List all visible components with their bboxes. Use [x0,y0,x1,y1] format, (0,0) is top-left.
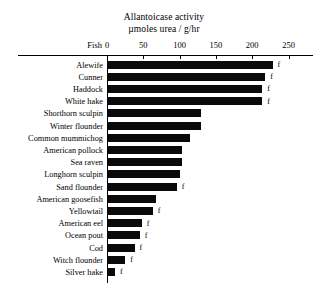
bar-row: Witch flounderf [0,256,328,268]
x-axis-line [18,55,313,56]
bar-row: American pollock [0,146,328,158]
bar-row: Common mummichog [0,134,328,146]
x-tick-label-100: 100 [173,40,186,50]
category-label: Winter flounder [50,122,103,131]
bar-row: Winter flounder [0,122,328,134]
bar [107,256,125,264]
footnote-marker: f [140,244,143,252]
bar [107,231,140,239]
x-tick-label-200: 200 [246,40,259,50]
bar [107,85,262,93]
chart-title: Allantoicase activity [0,11,328,23]
bar [107,134,190,142]
footnote-marker: f [267,98,270,106]
bar [107,170,180,178]
bar [107,183,177,191]
bar [107,195,156,203]
bar [107,73,265,81]
plot-area: AlewifefCunnerfHaddockfWhite hakefShorth… [0,59,328,284]
footnote-marker: f [182,183,185,191]
category-label: Sand flounder [56,183,103,192]
category-axis-label: Fish [60,40,102,50]
allantoicase-activity-bar-chart: Allantoicase activity µmoles urea / g/hr… [0,0,328,288]
category-label: Witch flounder [53,256,103,265]
bar [107,158,182,166]
bar-row: White hakef [0,97,328,109]
category-label: Cod [89,244,103,253]
category-label: Haddock [73,85,103,94]
x-tick-label-150: 150 [210,40,223,50]
category-label: Alewife [76,61,103,70]
chart-title-block: Allantoicase activity µmoles urea / g/hr [0,11,328,35]
bar-row: American eelf [0,219,328,231]
bar [107,268,115,276]
category-label: Silver hake [65,268,103,277]
bar [107,109,201,117]
bar-row: Sea raven [0,158,328,170]
category-label: American eel [59,219,103,228]
chart-subtitle-units: µmoles urea / g/hr [0,23,328,35]
bar-row: Longhorn sculpin [0,170,328,182]
bar-row: Alewifef [0,61,328,73]
bar-row: Shorthorn sculpin [0,109,328,121]
category-label: White hake [65,97,103,106]
category-label: Common mummichog [28,134,103,143]
bar-row: Codf [0,244,328,256]
bar [107,207,153,215]
bar-row: Sand flounderf [0,183,328,195]
footnote-marker: f [145,232,148,240]
bar [107,122,201,130]
footnote-marker: f [267,85,270,93]
category-label: Longhorn sculpin [44,170,103,179]
bar [107,146,182,154]
category-label: American goosefish [36,195,103,204]
x-axis: Fish 050100150200250 [0,40,328,60]
bar [107,61,273,69]
footnote-marker: f [120,268,123,276]
bar [107,219,142,227]
x-tick-label-0: 0 [105,40,109,50]
footnote-marker: f [278,61,281,69]
category-label: Cunner [79,73,103,82]
footnote-marker: f [158,207,161,215]
bar [107,244,135,252]
footnote-marker: f [147,220,150,228]
x-tick-label-250: 250 [282,40,295,50]
footnote-marker: f [130,256,133,264]
bar-row: Ocean poutf [0,231,328,243]
category-label: American pollock [43,146,103,155]
category-label: Yellowtail [69,207,103,216]
bar [107,97,262,105]
bar-row: Haddockf [0,85,328,97]
category-label: Sea raven [71,158,103,167]
bar-row: American goosefish [0,195,328,207]
x-tick-label-50: 50 [139,40,148,50]
bar-row: Silver hakef [0,268,328,280]
bar-row: Cunnerf [0,73,328,85]
category-label: Shorthorn sculpin [44,109,103,118]
footnote-marker: f [270,73,273,81]
category-label: Ocean pout [65,231,103,240]
bar-row: Yellowtailf [0,207,328,219]
